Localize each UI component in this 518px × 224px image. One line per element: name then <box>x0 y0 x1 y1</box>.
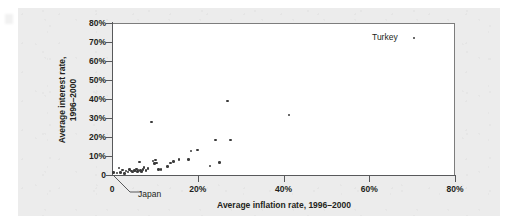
y-axis-title-line-1: Average interest rate, <box>57 57 67 144</box>
data-point <box>121 169 124 172</box>
data-point <box>226 100 229 103</box>
data-point <box>178 158 181 161</box>
y-tick-mark <box>106 80 112 81</box>
y-tick-mark <box>106 156 112 157</box>
y-axis-line <box>112 22 113 176</box>
x-tick-mark <box>198 176 199 182</box>
x-tick-label: 80% <box>431 184 479 194</box>
data-point <box>169 162 172 165</box>
figure-root: 010%20%30%40%50%60%70%80% 020%40%60%80% … <box>0 0 518 224</box>
plot-area <box>112 23 455 175</box>
data-point <box>138 161 141 164</box>
x-tick-mark <box>369 176 370 182</box>
y-tick-label: 80% <box>58 19 106 28</box>
data-point <box>214 139 217 142</box>
x-tick-label: 60% <box>345 184 393 194</box>
data-point <box>187 158 190 161</box>
data-point <box>142 168 145 171</box>
y-axis-title-line-2: 1996–2000 <box>68 79 78 122</box>
y-tick-mark <box>106 118 112 119</box>
x-tick-label: 40% <box>260 184 308 194</box>
y-tick-mark <box>106 61 112 62</box>
y-axis-title: Average interest rate, 1996–2000 <box>57 36 79 164</box>
data-point <box>154 159 157 162</box>
y-tick-mark <box>106 137 112 138</box>
data-point <box>172 160 175 163</box>
annotation-turkey-label: Turkey <box>372 32 398 42</box>
y-tick-mark <box>106 23 112 24</box>
data-point <box>166 165 169 168</box>
y-tick-mark <box>106 99 112 100</box>
x-tick-label: 20% <box>174 184 222 194</box>
x-tick-mark <box>284 176 285 182</box>
annotation-japan-label: Japan <box>138 189 161 199</box>
x-tick-mark <box>455 176 456 182</box>
data-point <box>160 168 163 171</box>
data-point <box>229 139 232 142</box>
x-axis-title: Average inflation rate, 1996–2000 <box>112 200 456 210</box>
scatter-chart: 010%20%30%40%50%60%70%80% 020%40%60%80% … <box>0 0 518 224</box>
data-point <box>218 161 221 164</box>
y-tick-label: 0 <box>58 171 106 180</box>
y-tick-mark <box>106 42 112 43</box>
